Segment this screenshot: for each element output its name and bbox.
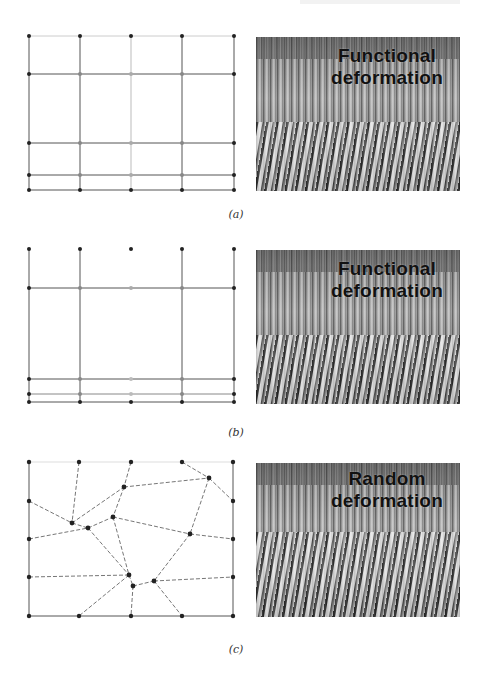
photo-b: Functional deformation [256, 250, 460, 404]
mesh-random-c [0, 450, 250, 630]
photo-label-line1: Functional [322, 258, 452, 280]
photo-label-line2: deformation [322, 490, 452, 512]
photo-label-line1: Functional [322, 45, 452, 67]
mesh-grid-a [0, 0, 250, 200]
photo-texture-bottom [256, 122, 460, 191]
photo-label: Random deformation [322, 468, 452, 512]
caption-c: (c) [216, 643, 256, 656]
mesh-grid-b [0, 200, 250, 420]
photo-label-line1: Random [322, 468, 452, 490]
photo-texture-bottom [256, 335, 460, 404]
photo-label: Functional deformation [322, 258, 452, 302]
photo-texture-bottom [256, 532, 460, 617]
caption-b: (b) [216, 426, 256, 439]
photo-label: Functional deformation [322, 45, 452, 89]
photo-a: Functional deformation [256, 37, 460, 191]
photo-c: Random deformation [256, 463, 460, 617]
page-header-strip [300, 0, 460, 4]
photo-label-line2: deformation [322, 280, 452, 302]
photo-label-line2: deformation [322, 67, 452, 89]
